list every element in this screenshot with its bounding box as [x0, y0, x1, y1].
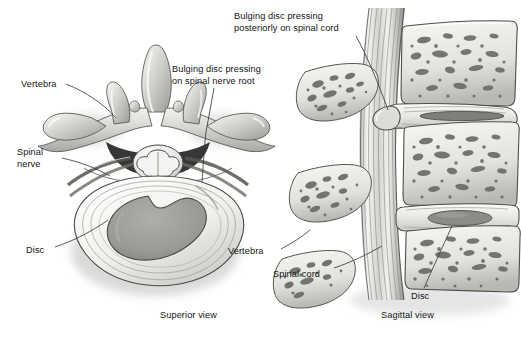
vb1-outline — [401, 21, 517, 106]
label-spinal-nerve: Spinalnerve — [17, 147, 43, 170]
vertebral-body-3 — [405, 226, 520, 292]
normal-disc-nucleus-highlight — [436, 212, 468, 218]
caption-sagittal-view: Sagittal view — [381, 310, 434, 320]
right-accessory-process — [173, 101, 183, 112]
label-spinal-cord: Spinal cord — [273, 269, 320, 281]
spinal-cord-bundle — [359, 8, 405, 300]
anatomy-svg — [0, 0, 521, 337]
sp2-outline — [289, 164, 371, 222]
left-accessory-process — [129, 101, 139, 112]
label-bulging-disc-spinal-cord: Bulging disc pressingposteriorly on spin… — [234, 11, 339, 34]
vertebral-body-1 — [401, 21, 517, 106]
bulging-disc-nucleus — [420, 111, 504, 120]
label-disc-sagittal: Disc — [411, 291, 429, 303]
label-vertebra-sagittal: Vertebra — [228, 246, 264, 258]
spinous-process-sagittal-2 — [289, 164, 371, 222]
vb2-outline — [403, 122, 519, 208]
label-vertebra-superior: Vertebra — [21, 79, 57, 91]
spinous-process — [142, 45, 172, 112]
medical-illustration-figure: Vertebra Spinalnerve Disc Bulging disc p… — [0, 0, 521, 337]
label-bulging-disc-nerve-root: Bulging disc pressingon spinal nerve roo… — [172, 64, 261, 87]
leader-vertebra-sagittal — [281, 230, 310, 249]
label-disc-superior: Disc — [26, 245, 44, 257]
vertebral-body-2 — [403, 122, 519, 208]
caption-superior-view: Superior view — [160, 310, 217, 320]
